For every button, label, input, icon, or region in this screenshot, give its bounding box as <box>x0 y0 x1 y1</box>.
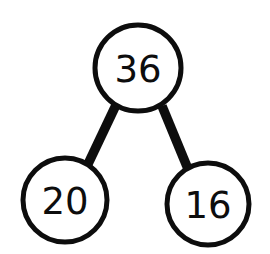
diagram-canvas: 36 20 16 <box>0 0 270 254</box>
node-root-label: 36 <box>114 48 161 91</box>
edge-root-to-right <box>162 106 188 169</box>
node-left-child-label: 20 <box>41 180 88 223</box>
node-left-child[interactable]: 20 <box>23 158 107 242</box>
edge-root-to-left <box>88 105 116 164</box>
node-right-child-label: 16 <box>184 184 231 227</box>
edges-group <box>88 105 188 169</box>
node-root[interactable]: 36 <box>95 25 181 111</box>
node-right-child[interactable]: 16 <box>167 163 249 245</box>
binary-tree-diagram: 36 20 16 <box>0 0 270 254</box>
